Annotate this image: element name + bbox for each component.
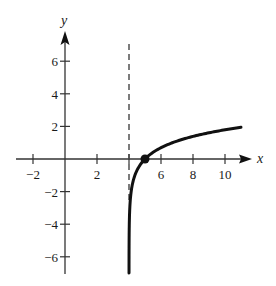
y-tick-label: −4 — [44, 217, 58, 232]
x-tick-label: 6 — [158, 167, 165, 182]
log-curve — [129, 127, 241, 273]
y-tick-label: −2 — [44, 185, 58, 200]
y-tick-label: 4 — [52, 87, 59, 102]
x-tick-label: −2 — [26, 167, 40, 182]
y-tick-label: −6 — [44, 250, 58, 265]
x-intercept-point — [141, 155, 150, 164]
y-axis: y — [59, 13, 70, 274]
y-tick-label: 2 — [52, 119, 59, 134]
graph: x y −226810 642−2−4−6 — [0, 0, 276, 286]
x-tick-label: 10 — [219, 167, 232, 182]
y-tick-label: 6 — [52, 54, 59, 69]
points — [141, 155, 150, 164]
y-axis-label: y — [59, 13, 68, 28]
x-axis-label: x — [256, 151, 264, 166]
x-tick-label: 2 — [94, 167, 101, 182]
x-tick-label: 8 — [190, 167, 197, 182]
